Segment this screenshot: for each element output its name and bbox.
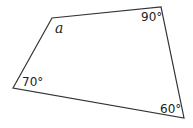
angle-label-top-left: a: [55, 20, 63, 36]
angle-label-bottom-left: 70°: [22, 75, 43, 89]
quadrilateral-diagram: a 90° 70° 60°: [0, 0, 193, 128]
angle-label-bottom-right: 60°: [160, 102, 181, 116]
angle-label-top-right: 90°: [141, 10, 162, 24]
